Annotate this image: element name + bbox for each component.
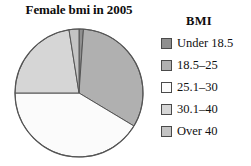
legend-swatch-icon	[161, 38, 172, 49]
legend-item-label: 30.1–40	[177, 103, 218, 116]
legend-item-25-1-30[interactable]: 25.1–30	[161, 76, 251, 98]
pie-slices-group	[15, 29, 143, 157]
legend-swatch-icon	[161, 60, 172, 71]
legend-item-under-18-5[interactable]: Under 18.5	[161, 32, 251, 54]
legend-swatch-icon	[161, 82, 172, 93]
legend: BMI Under 18.5 18.5–25 25.1–30 30.1–40 O…	[158, 14, 251, 164]
pie-svg	[0, 18, 158, 166]
legend-swatch-icon	[161, 104, 172, 115]
pie-plot-area	[0, 18, 158, 166]
pie-slice[interactable]	[15, 30, 79, 93]
legend-item-over-40[interactable]: Over 40	[161, 120, 251, 142]
legend-item-30-1-40[interactable]: 30.1–40	[161, 98, 251, 120]
legend-item-label: Under 18.5	[177, 37, 233, 50]
legend-item-label: 18.5–25	[177, 59, 218, 72]
legend-swatch-icon	[161, 126, 172, 137]
legend-item-18-5-25[interactable]: 18.5–25	[161, 54, 251, 76]
pie-chart-figure: Female bmi in 2005 BMI Under 18.5 18.5–2…	[0, 0, 251, 166]
legend-item-label: Over 40	[177, 125, 218, 138]
legend-title: BMI	[160, 14, 238, 29]
chart-title: Female bmi in 2005	[4, 2, 154, 18]
legend-item-label: 25.1–30	[177, 81, 218, 94]
